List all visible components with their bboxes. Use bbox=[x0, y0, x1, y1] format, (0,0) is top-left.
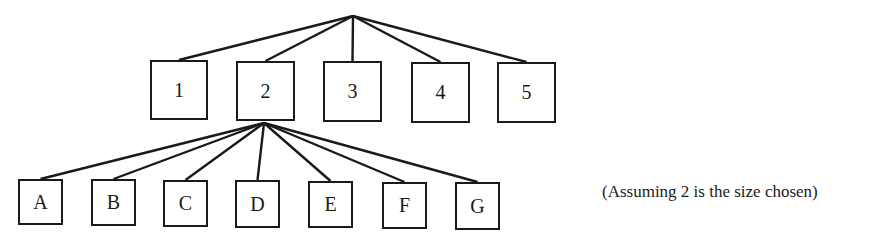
node-label: 3 bbox=[348, 80, 358, 103]
option-node-g: G bbox=[455, 182, 500, 230]
edge-root-to-4 bbox=[353, 16, 441, 62]
edge-root-to-5 bbox=[353, 16, 527, 62]
size-node-2: 2 bbox=[236, 61, 295, 121]
edge-root-to-1 bbox=[179, 16, 353, 60]
option-node-f: F bbox=[382, 182, 427, 229]
node-label: G bbox=[470, 195, 484, 218]
option-node-a: A bbox=[18, 179, 63, 225]
node-label: C bbox=[179, 192, 192, 215]
edge-2-to-D bbox=[258, 123, 265, 180]
node-label: F bbox=[399, 194, 410, 217]
caption: (Assuming 2 is the size chosen) bbox=[602, 182, 818, 202]
edge-2-to-B bbox=[114, 123, 265, 179]
node-label: B bbox=[107, 191, 120, 214]
node-label: 5 bbox=[522, 81, 532, 104]
option-node-e: E bbox=[308, 181, 353, 228]
option-node-d: D bbox=[235, 180, 280, 228]
size-node-3: 3 bbox=[323, 61, 382, 122]
option-node-c: C bbox=[163, 180, 208, 227]
node-label: D bbox=[250, 193, 264, 216]
option-node-b: B bbox=[91, 179, 136, 226]
edge-2-to-C bbox=[186, 123, 265, 180]
node-label: E bbox=[324, 193, 336, 216]
edge-root-to-2 bbox=[266, 16, 354, 61]
edge-2-to-A bbox=[41, 123, 265, 179]
size-node-4: 4 bbox=[411, 62, 470, 123]
size-node-5: 5 bbox=[497, 62, 556, 123]
edge-2-to-F bbox=[264, 123, 405, 182]
edge-root-to-3 bbox=[353, 16, 354, 61]
node-label: 4 bbox=[436, 81, 446, 104]
node-label: 2 bbox=[261, 80, 271, 103]
size-node-1: 1 bbox=[150, 60, 208, 120]
node-label: A bbox=[33, 191, 47, 214]
node-label: 1 bbox=[174, 79, 184, 102]
